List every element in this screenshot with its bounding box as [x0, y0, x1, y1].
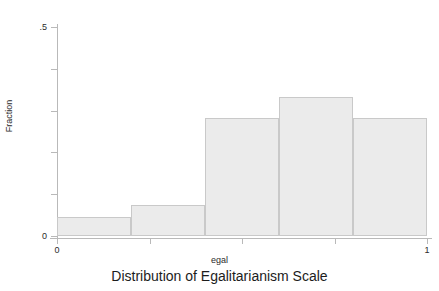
histogram-bar — [57, 217, 131, 236]
x-axis-tick — [427, 239, 428, 244]
y-axis-title: Fraction — [4, 100, 14, 133]
x-axis-title: egal — [0, 255, 439, 265]
x-axis-tick — [335, 239, 336, 244]
y-axis-tick-label: .5 — [39, 23, 47, 32]
x-axis-tick — [57, 239, 58, 244]
y-axis-tick-label: 0 — [42, 232, 47, 241]
x-axis-tick-label: 1 — [424, 246, 429, 255]
x-axis-tick — [242, 239, 243, 244]
histogram-bar — [205, 118, 279, 236]
histogram-bar — [279, 97, 353, 236]
x-axis-tick — [150, 239, 151, 244]
histogram-bar — [131, 205, 205, 236]
x-axis-tick-label: 0 — [54, 246, 59, 255]
plot-area — [57, 27, 427, 236]
y-axis-tick — [51, 236, 57, 237]
histogram-figure: 0.5 01 Fraction egal Distribution of Ega… — [0, 0, 439, 291]
histogram-bar — [353, 118, 427, 236]
chart-title: Distribution of Egalitarianism Scale — [0, 268, 439, 284]
x-axis-line — [50, 238, 432, 239]
